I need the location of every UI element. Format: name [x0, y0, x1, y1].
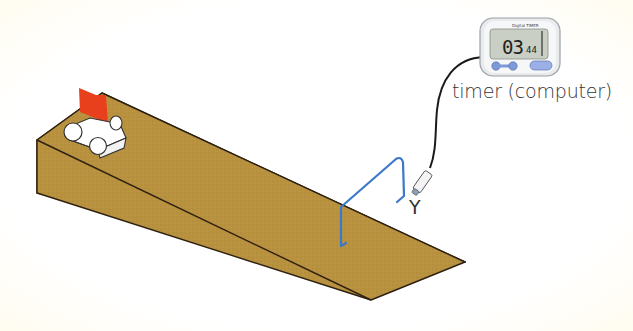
cart-wheel [110, 116, 122, 130]
sensor-plug [410, 170, 432, 196]
timer-small-digits: 44 [526, 45, 537, 55]
timer-button-mid [509, 62, 517, 70]
timer-label: timer (computer) [452, 80, 612, 102]
cart-wheel [64, 123, 82, 141]
timer-brand: Digital TIMER [512, 23, 539, 28]
timer-button-right [530, 61, 552, 70]
cart-wheel [90, 138, 107, 155]
timer-main-digits: 03 [502, 36, 523, 58]
diagram-canvas [0, 0, 633, 331]
gate-label: Y [409, 196, 421, 218]
timer-cable [430, 57, 484, 168]
